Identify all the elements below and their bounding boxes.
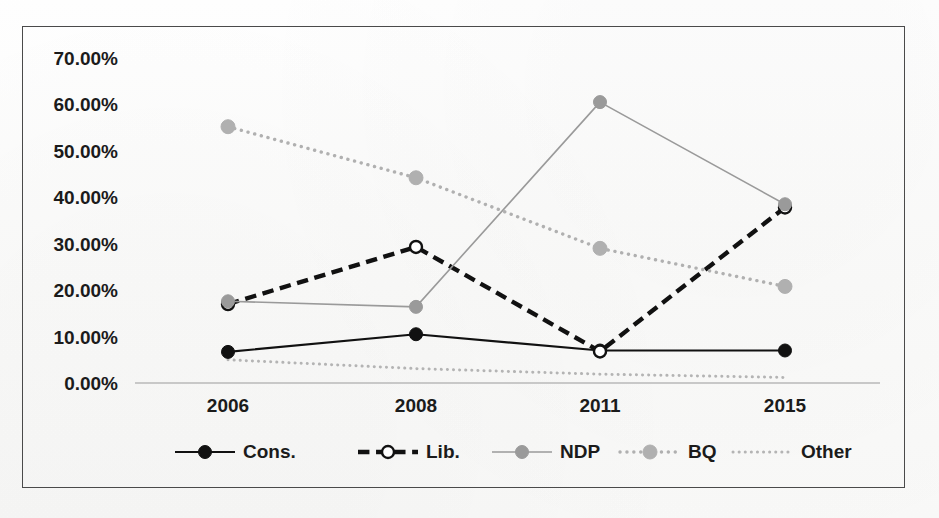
legend-marker-ndp <box>516 446 529 459</box>
x-tick-label: 2008 <box>395 395 437 416</box>
series-line-other <box>228 360 785 378</box>
series-line-ndp <box>228 102 785 307</box>
data-point-ndp-2006 <box>222 295 235 308</box>
legend-marker-cons <box>199 446 212 459</box>
data-point-cons-2006 <box>222 345 235 358</box>
legend-marker-lib <box>382 446 394 458</box>
series-markers-group <box>221 96 792 359</box>
legend-label-cons: Cons. <box>243 441 296 462</box>
y-tick-label: 50.00% <box>54 141 119 162</box>
y-axis-tick-labels: 0.00%10.00%20.00%30.00%40.00%50.00%60.00… <box>54 48 119 394</box>
data-point-bq-2006 <box>221 120 235 134</box>
x-tick-label: 2015 <box>764 395 807 416</box>
x-tick-label: 2011 <box>579 395 621 416</box>
series-lines-group <box>228 102 785 377</box>
data-point-ndp-2015 <box>779 198 792 211</box>
data-point-ndp-2011 <box>594 96 607 109</box>
data-point-ndp-2008 <box>410 300 423 313</box>
x-tick-label: 2006 <box>207 395 249 416</box>
data-point-cons-2008 <box>410 328 423 341</box>
data-point-cons-2015 <box>779 344 792 357</box>
legend-label-bq: BQ <box>688 441 717 462</box>
line-chart-plot: 0.00%10.00%20.00%30.00%40.00%50.00%60.00… <box>0 0 939 518</box>
legend-label-ndp: NDP <box>560 441 600 462</box>
series-line-lib <box>228 207 785 351</box>
data-point-bq-2008 <box>409 171 423 185</box>
y-tick-label: 20.00% <box>54 280 119 301</box>
data-point-bq-2015 <box>778 279 792 293</box>
legend-label-lib: Lib. <box>426 441 460 462</box>
y-tick-label: 60.00% <box>54 94 119 115</box>
y-tick-label: 10.00% <box>54 327 119 348</box>
y-tick-label: 0.00% <box>64 373 118 394</box>
series-line-cons <box>228 334 785 352</box>
chart-container: 0.00%10.00%20.00%30.00%40.00%50.00%60.00… <box>0 0 939 518</box>
data-point-lib-2008 <box>410 241 422 253</box>
y-tick-label: 30.00% <box>54 234 119 255</box>
y-tick-label: 70.00% <box>54 48 119 69</box>
data-point-lib-2011 <box>594 345 606 357</box>
data-point-bq-2011 <box>593 241 607 255</box>
legend-label-other: Other <box>801 441 852 462</box>
chart-legend: Cons.Lib.NDPBQOther <box>175 441 852 462</box>
legend-marker-bq <box>643 445 657 459</box>
x-axis-tick-labels: 2006200820112015 <box>207 395 807 416</box>
y-tick-label: 40.00% <box>54 187 119 208</box>
